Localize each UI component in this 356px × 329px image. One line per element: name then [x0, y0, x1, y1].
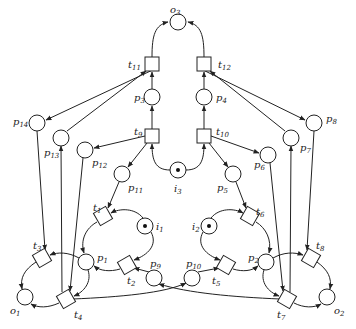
arc-t12-p8: [197, 67, 305, 120]
places: [17, 14, 335, 305]
arc-t3-o1: [22, 262, 36, 289]
place-p12: [77, 142, 93, 158]
label-p10: p10: [186, 258, 202, 271]
arc-t7-p7: [290, 146, 291, 292]
transition-t11: [145, 57, 159, 71]
arc-t11-o3: [152, 22, 168, 57]
arc-p2-t8: [273, 253, 303, 258]
place-i3: [170, 162, 186, 178]
arc-p6-t7: [270, 163, 283, 291]
label-i3: i3: [174, 183, 182, 196]
label-o2: o2: [334, 305, 345, 318]
label-p7: p7: [300, 142, 311, 155]
arc-i1-t1: [111, 210, 143, 218]
label-o3: o3: [170, 4, 181, 17]
place-o1: [17, 289, 33, 305]
arc-t5-p2: [233, 266, 258, 271]
label-t7: t7: [277, 309, 286, 322]
label-p4: p4: [216, 92, 227, 105]
petri-net-diagram: o3 p3 p4 i3 p11 p5 p12 p6 p14 p13 p7 p8 …: [0, 0, 356, 329]
arc-i2-t6: [211, 210, 243, 218]
transition-t2: [117, 255, 136, 274]
transition-t7: [277, 289, 296, 308]
label-i2: i2: [192, 221, 200, 234]
label-p11: p11: [128, 182, 143, 195]
place-i1: [137, 218, 153, 234]
label-t12: t12: [218, 59, 231, 72]
transition-t4: [56, 289, 75, 308]
place-p9: [146, 270, 162, 286]
label-o1: o1: [10, 305, 21, 318]
arc-p5-t6: [236, 182, 246, 208]
transition-t3: [32, 248, 51, 267]
arc-i3-t10: [186, 144, 204, 170]
arc-t4-o1: [31, 303, 59, 307]
label-i1: i1: [156, 221, 164, 234]
arc-t12-o3: [188, 22, 204, 57]
place-p8: [306, 115, 322, 131]
arc-i1-t2: [134, 232, 153, 260]
place-p11: [114, 166, 130, 182]
arc-p1-t4: [74, 270, 89, 296]
arc-p11-t1: [108, 182, 119, 208]
transition-t8: [301, 248, 320, 267]
arc-p12-t4: [70, 158, 83, 291]
label-p1: p1: [97, 252, 108, 265]
label-p12: p12: [92, 157, 108, 170]
transition-t10: [197, 129, 211, 143]
label-t11: t11: [128, 59, 141, 72]
arc-t10-p5: [209, 143, 228, 167]
place-i2: [201, 218, 217, 234]
place-p1: [78, 254, 94, 270]
label-t3: t3: [33, 240, 42, 253]
label-p3: p3: [134, 92, 145, 105]
token-icon: [207, 224, 211, 228]
arc-t9-p11: [128, 143, 147, 167]
label-p2: p2: [248, 252, 259, 265]
arc-t11-p14: [46, 67, 159, 120]
token-icon: [143, 224, 147, 228]
place-p13: [53, 130, 69, 146]
label-t8: t8: [316, 240, 325, 253]
label-p14: p14: [13, 116, 28, 129]
token-icon: [176, 168, 180, 172]
label-t5: t5: [212, 275, 221, 288]
arc-t4-p13: [61, 146, 62, 292]
arc-t1-p1: [83, 222, 97, 253]
arc-i2-t5: [201, 232, 220, 260]
place-p7: [283, 130, 299, 146]
label-p9: p9: [150, 258, 161, 271]
label-p5: p5: [217, 182, 228, 195]
place-p14: [29, 115, 45, 131]
arc-p2-t7: [263, 270, 279, 296]
arc-t7-o2: [294, 303, 321, 307]
petri-net-svg: o3 p3 p4 i3 p11 p5 p12 p6 p14 p13 p7 p8 …: [0, 0, 356, 329]
arc-t10-p6: [211, 136, 259, 153]
place-p3: [144, 89, 160, 105]
arc-p1-t3: [50, 253, 79, 258]
label-t2: t2: [127, 275, 136, 288]
place-p2: [258, 254, 274, 270]
arc-i3-t9: [152, 144, 170, 170]
arc-p9-t2: [134, 268, 149, 272]
place-o2: [319, 289, 335, 305]
label-t9: t9: [134, 126, 143, 139]
place-p6: [260, 147, 276, 163]
place-p10: [184, 270, 200, 286]
place-p5: [225, 166, 241, 182]
transition-t9: [145, 129, 159, 143]
transition-t5: [216, 255, 235, 274]
label-t10: t10: [216, 126, 229, 139]
label-p8: p8: [326, 113, 337, 126]
arc-t8-o2: [317, 262, 330, 289]
place-p4: [196, 89, 212, 105]
label-t4: t4: [74, 309, 83, 322]
transition-t12: [197, 57, 211, 71]
label-p13: p13: [44, 147, 60, 160]
arc-t2-p1: [94, 266, 120, 271]
arc-t6-p2: [256, 222, 270, 253]
